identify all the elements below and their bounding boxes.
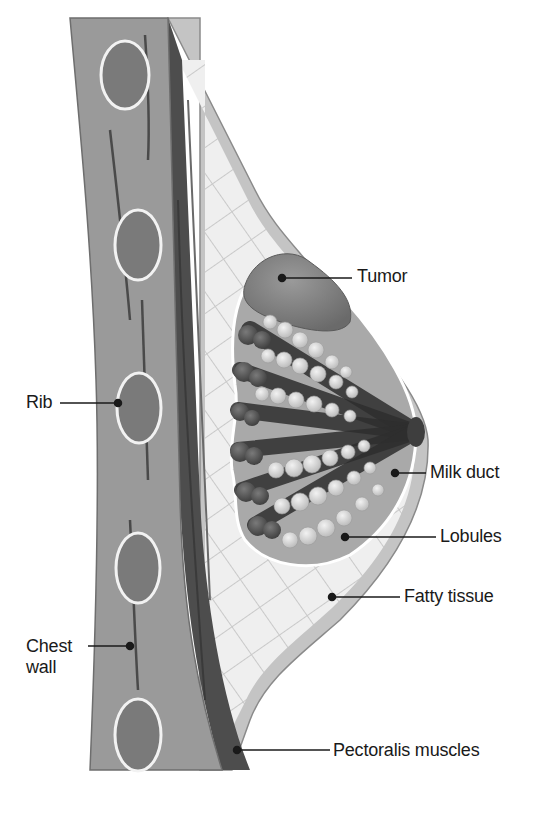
rib-2	[115, 210, 161, 280]
label-rib: Rib	[26, 392, 52, 413]
label-fatty-tissue: Fatty tissue	[404, 586, 494, 607]
label-chest-wall: Chest wall	[26, 636, 86, 678]
label-pectoralis-muscles: Pectoralis muscles	[333, 740, 479, 761]
label-milk-duct: Milk duct	[430, 462, 499, 483]
rib-4	[116, 533, 160, 603]
rib-1	[101, 41, 149, 109]
label-lobules: Lobules	[440, 526, 502, 547]
rib-3	[117, 373, 161, 443]
nipple	[407, 417, 425, 447]
label-tumor: Tumor	[357, 266, 407, 287]
rib-5	[115, 699, 161, 771]
breast-anatomy-diagram	[0, 0, 534, 818]
